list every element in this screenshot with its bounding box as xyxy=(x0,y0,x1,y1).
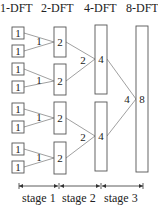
svg-text:1: 1 xyxy=(15,81,21,93)
svg-text:1: 1 xyxy=(36,151,42,163)
svg-text:1: 1 xyxy=(15,161,21,173)
svg-text:1: 1 xyxy=(36,74,42,86)
svg-text:2: 2 xyxy=(57,75,63,87)
svg-text:1: 1 xyxy=(15,63,21,75)
svg-text:4: 4 xyxy=(98,53,104,65)
svg-text:1: 1 xyxy=(36,35,42,47)
svg-text:8: 8 xyxy=(139,93,145,105)
svg-text:2: 2 xyxy=(57,36,63,48)
svg-text:2: 2 xyxy=(57,112,63,124)
stage-3-label: stage 3 xyxy=(104,191,138,206)
svg-text:1: 1 xyxy=(15,143,21,155)
stage-arrows xyxy=(19,183,143,189)
svg-text:2: 2 xyxy=(80,54,86,66)
svg-text:1: 1 xyxy=(36,111,42,123)
stage-2-label: stage 2 xyxy=(62,191,96,206)
svg-text:2: 2 xyxy=(57,152,63,164)
svg-text:1: 1 xyxy=(15,45,21,57)
butterfly-diagram: 1 1 1 1 1 1 1 1 2 2 2 2 4 4 8 1 1 1 1 2 … xyxy=(0,0,158,212)
stage3-edges xyxy=(107,59,136,136)
svg-text:4: 4 xyxy=(98,130,104,142)
stage-1-label: stage 1 xyxy=(22,191,56,206)
svg-text:1: 1 xyxy=(15,103,21,115)
box-label: 1 xyxy=(15,27,21,39)
svg-text:4: 4 xyxy=(124,93,130,105)
svg-text:2: 2 xyxy=(80,131,86,143)
stage1-edges xyxy=(24,33,54,167)
svg-text:1: 1 xyxy=(15,121,21,133)
dft4-boxes xyxy=(95,25,107,171)
